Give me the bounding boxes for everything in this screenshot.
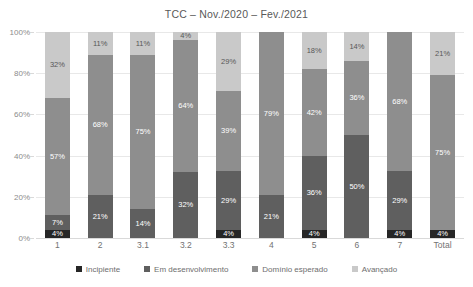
bar-segment[interactable]: 21% (430, 32, 455, 75)
bar-segment[interactable]: 4% (430, 230, 455, 238)
legend-label: Avançado (362, 265, 397, 274)
bar-slot: 68%29%4% (378, 32, 421, 238)
y-axis-tick-label: 0% (18, 234, 30, 243)
bar-segment[interactable]: 36% (344, 61, 369, 135)
bar-segment-label: 11% (93, 40, 107, 48)
bar-segment-label: 4% (309, 230, 320, 238)
plot-area: 32%57%7%4%11%68%21%11%75%14%4%64%32%29%3… (36, 32, 464, 238)
stacked-bar[interactable]: 18%42%36%4% (302, 32, 327, 238)
y-axis: 0%20%40%60%80%100% (0, 32, 34, 238)
bar-segment-label: 14% (349, 43, 364, 51)
bar-segment[interactable]: 4% (173, 32, 198, 40)
bar-segment[interactable]: 21% (88, 195, 113, 238)
bar-segment[interactable]: 14% (344, 32, 369, 61)
bar-segment[interactable]: 18% (302, 32, 327, 69)
bar-segment[interactable]: 21% (259, 195, 284, 238)
x-axis-tick-label: 4 (250, 240, 293, 254)
bar-segment-label: 42% (307, 109, 322, 117)
bar-slot: 4%64%32% (164, 32, 207, 238)
stacked-bar[interactable]: 14%36%50% (344, 32, 369, 238)
bar-segment-label: 29% (221, 197, 236, 205)
bar-segment-label: 29% (221, 58, 236, 66)
bar-segment-label: 4% (223, 230, 234, 238)
bar-segment[interactable]: 50% (344, 135, 369, 238)
y-axis-tick-mark (30, 114, 34, 115)
stacked-bar[interactable]: 11%75%14% (130, 32, 155, 238)
bar-segment[interactable]: 4% (216, 230, 241, 238)
bar-slot: 79%21% (250, 32, 293, 238)
bar-segment-label: 21% (93, 213, 108, 221)
bar-segment-label: 21% (435, 50, 450, 58)
bar-segment-label: 14% (135, 220, 150, 228)
bar-segment-label: 75% (435, 149, 450, 157)
bar-segment[interactable]: 32% (45, 32, 70, 98)
bar-segment[interactable]: 64% (173, 40, 198, 172)
bar-segment-label: 68% (392, 98, 407, 106)
x-axis-tick-label: 5 (293, 240, 336, 254)
bar-segment[interactable]: 7% (45, 215, 70, 229)
bar-slot: 18%42%36%4% (293, 32, 336, 238)
x-axis-tick-label: 7 (378, 240, 421, 254)
bar-segment-label: 4% (180, 32, 191, 40)
stacked-bar-chart: TCC – Nov./2020 – Fev./2021 0%20%40%60%8… (0, 0, 473, 287)
bar-segment[interactable]: 75% (430, 75, 455, 230)
legend-label: Domínio esperado (262, 265, 327, 274)
bar-segment[interactable]: 68% (88, 55, 113, 195)
stacked-bar[interactable]: 29%39%29%4% (216, 32, 241, 238)
bar-segment-label: 4% (437, 230, 448, 238)
stacked-bar[interactable]: 79%21% (259, 32, 284, 238)
bar-segment[interactable]: 39% (216, 91, 241, 171)
bar-segment[interactable]: 42% (302, 69, 327, 156)
bar-segment-label: 68% (93, 121, 108, 129)
y-axis-tick-mark (30, 32, 34, 33)
bar-segment[interactable]: 11% (88, 32, 113, 55)
bar-segment[interactable]: 4% (302, 230, 327, 238)
bar-segment-label: 64% (178, 102, 193, 110)
bar-segment-label: 32% (50, 61, 65, 69)
bar-segment[interactable]: 4% (387, 230, 412, 238)
bar-slot: 21%75%4% (421, 32, 464, 238)
legend-label: Em desenvolvimento (154, 265, 228, 274)
stacked-bar[interactable]: 21%75%4% (430, 32, 455, 238)
legend-item[interactable]: Domínio esperado (252, 265, 327, 274)
bar-segment[interactable]: 79% (259, 32, 284, 195)
bar-segment[interactable]: 29% (387, 171, 412, 230)
bar-group: 32%57%7%4%11%68%21%11%75%14%4%64%32%29%3… (36, 32, 464, 238)
bar-segment-label: 11% (136, 40, 150, 48)
bar-segment-label: 57% (50, 153, 65, 161)
stacked-bar[interactable]: 4%64%32% (173, 32, 198, 238)
bar-segment[interactable]: 11% (130, 32, 155, 55)
bar-segment[interactable]: 68% (387, 32, 412, 171)
bar-segment[interactable]: 32% (173, 172, 198, 238)
bar-slot: 11%68%21% (79, 32, 122, 238)
bar-segment[interactable]: 36% (302, 156, 327, 230)
bar-segment-label: 79% (264, 110, 279, 118)
x-axis-tick-label: 3.2 (164, 240, 207, 254)
bar-segment[interactable]: 57% (45, 98, 70, 215)
legend-swatch-icon (252, 266, 258, 272)
legend-swatch-icon (144, 266, 150, 272)
bar-segment-label: 50% (349, 183, 364, 191)
stacked-bar[interactable]: 68%29%4% (387, 32, 412, 238)
legend-item[interactable]: Incipiente (76, 265, 120, 274)
legend-item[interactable]: Em desenvolvimento (144, 265, 228, 274)
bar-segment[interactable]: 29% (216, 171, 241, 230)
bar-segment[interactable]: 29% (216, 32, 241, 91)
bar-segment[interactable]: 75% (130, 55, 155, 210)
bar-segment[interactable]: 4% (45, 230, 70, 238)
y-axis-tick-label: 80% (14, 69, 30, 78)
bar-segment[interactable]: 14% (130, 209, 155, 238)
bar-segment-label: 36% (307, 189, 322, 197)
bar-segment-label: 4% (52, 230, 63, 238)
legend-swatch-icon (352, 266, 358, 272)
stacked-bar[interactable]: 11%68%21% (88, 32, 113, 238)
legend-item[interactable]: Avançado (352, 265, 397, 274)
bar-segment-label: 7% (52, 219, 63, 227)
x-axis-tick-label: 6 (336, 240, 379, 254)
x-axis-tick-label: 3.1 (122, 240, 165, 254)
bar-segment-label: 36% (349, 94, 364, 102)
stacked-bar[interactable]: 32%57%7%4% (45, 32, 70, 238)
bar-segment-label: 18% (307, 47, 322, 55)
bar-segment-label: 32% (178, 201, 193, 209)
gridline (36, 238, 464, 239)
